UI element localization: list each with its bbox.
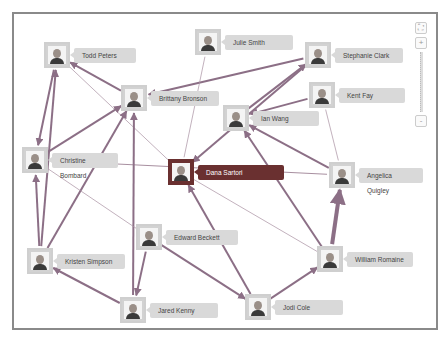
- node-ian[interactable]: [223, 105, 249, 131]
- edge-edward-jodi: [162, 245, 246, 299]
- node-label-jared[interactable]: Jared Kenny: [150, 303, 218, 318]
- avatar: [125, 89, 143, 107]
- node-edward[interactable]: [136, 224, 162, 250]
- edge-jodi-william: [270, 267, 317, 298]
- edge-angelica-ian: [249, 125, 329, 168]
- node-label-christine[interactable]: Christine Bombard: [52, 153, 118, 168]
- edge-todd-dana: [68, 65, 170, 161]
- node-christine[interactable]: [22, 147, 48, 173]
- avatar: [31, 252, 49, 270]
- edge-kent-angelica: [326, 110, 339, 161]
- zoom-in-button[interactable]: +: [415, 37, 427, 49]
- edge-kristen-christine: [36, 175, 40, 246]
- avatar: [333, 166, 351, 184]
- node-brittany[interactable]: [121, 85, 147, 111]
- zoom-slider[interactable]: [420, 52, 423, 112]
- avatar: [249, 298, 267, 316]
- avatar: [227, 109, 245, 127]
- avatar: [26, 151, 44, 169]
- avatar: [309, 46, 327, 64]
- node-jared[interactable]: [120, 297, 146, 323]
- edge-brittany-todd: [70, 62, 121, 90]
- node-angelica[interactable]: [329, 162, 355, 188]
- node-label-julie[interactable]: Julie Smith: [225, 35, 293, 50]
- edge-todd-christine: [38, 70, 54, 146]
- edge-stephanie-brittany: [149, 58, 304, 94]
- node-todd[interactable]: [44, 42, 70, 68]
- node-label-ian[interactable]: Ian Wang: [253, 111, 319, 126]
- edge-jared-brittany: [133, 113, 134, 295]
- node-julie[interactable]: [195, 29, 221, 55]
- node-label-brittany[interactable]: Brittany Bronson: [151, 91, 219, 106]
- edge-jared-kristen: [53, 268, 119, 303]
- node-label-jodi[interactable]: Jodi Cole: [275, 300, 343, 315]
- node-label-kent[interactable]: Kent Fay: [339, 88, 405, 103]
- avatar: [172, 163, 190, 181]
- edge-william-ian: [244, 130, 321, 246]
- node-kent[interactable]: [309, 82, 335, 108]
- node-kristen[interactable]: [27, 248, 53, 274]
- node-label-stephanie[interactable]: Stephanie Clark: [335, 48, 403, 63]
- avatar: [48, 46, 66, 64]
- zoom-control: ⛶ + -: [414, 22, 428, 127]
- node-label-dana[interactable]: Dana Sartori: [198, 165, 284, 180]
- avatar: [199, 33, 217, 51]
- avatar: [321, 250, 339, 268]
- node-label-todd[interactable]: Todd Peters: [74, 48, 136, 63]
- node-label-kristen[interactable]: Kristen Simpson: [57, 254, 125, 269]
- zoom-out-button[interactable]: -: [415, 115, 427, 127]
- node-stephanie[interactable]: [305, 42, 331, 68]
- fit-view-button[interactable]: ⛶: [415, 22, 427, 34]
- node-william[interactable]: [317, 246, 343, 272]
- node-label-angelica[interactable]: Angelica Quigley: [359, 168, 423, 183]
- node-label-william[interactable]: William Romaine: [347, 252, 413, 267]
- edge-christine-brittany: [48, 106, 122, 152]
- edge-william-angelica: [332, 190, 340, 244]
- avatar: [313, 86, 331, 104]
- node-label-edward[interactable]: Edward Beckett: [166, 230, 238, 245]
- node-dana[interactable]: [168, 159, 194, 185]
- avatar: [124, 301, 142, 319]
- node-jodi[interactable]: [245, 294, 271, 320]
- avatar: [140, 228, 158, 246]
- edge-edward-jared: [136, 252, 146, 296]
- edge-julie-dana: [184, 57, 205, 158]
